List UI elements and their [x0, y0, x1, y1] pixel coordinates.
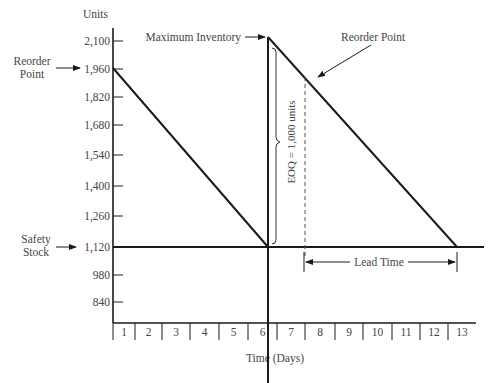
- y-tick-label: 1,400: [84, 180, 110, 193]
- x-tick-labels: 1 2 3 4 5 6 7 8 9 10 11 12 13: [121, 326, 468, 338]
- inventory-chart: Units 2,100 1,960 1,820 1,680 1,540 1,40…: [0, 0, 499, 383]
- svg-text:7: 7: [288, 326, 294, 338]
- svg-text:12: 12: [428, 326, 440, 338]
- svg-text:5: 5: [231, 326, 237, 338]
- svg-text:8: 8: [317, 326, 323, 338]
- y-axis-title: Units: [83, 8, 108, 20]
- y-tick-label: 2,100: [84, 35, 110, 48]
- y-tick-label: 1,120: [84, 241, 110, 254]
- reorder-point-right-label: Reorder Point: [341, 31, 406, 43]
- reorder-point-left-label-2: Point: [20, 68, 45, 80]
- svg-text:6: 6: [260, 326, 266, 338]
- svg-text:1: 1: [121, 326, 127, 338]
- y-tick-label: 1,260: [84, 210, 110, 223]
- y-tick-label: 1,540: [84, 149, 110, 162]
- y-ticks: 2,100 1,960 1,820 1,680 1,540 1,400 1,26…: [84, 35, 123, 308]
- y-tick-label: 1,960: [84, 63, 110, 76]
- safety-stock-label-2: Stock: [23, 246, 49, 258]
- y-tick-label: 1,680: [84, 119, 110, 132]
- eoq-brace: [272, 48, 280, 244]
- safety-stock-label: Safety: [21, 233, 51, 246]
- x-ticks: [113, 323, 448, 340]
- y-tick-label: 840: [93, 296, 111, 308]
- max-inventory-label: Maximum Inventory: [146, 31, 242, 44]
- inventory-line-cycle-1: [113, 68, 268, 247]
- svg-text:3: 3: [173, 326, 179, 338]
- eoq-label: EOQ = 1,000 units: [285, 100, 297, 183]
- svg-text:4: 4: [202, 326, 208, 338]
- svg-text:2: 2: [146, 326, 152, 338]
- y-tick-label: 980: [93, 269, 111, 281]
- x-axis-title: Time (Days): [246, 352, 304, 365]
- svg-text:10: 10: [372, 326, 384, 338]
- svg-text:9: 9: [346, 326, 352, 338]
- svg-text:13: 13: [456, 326, 468, 338]
- reorder-point-left-label: Reorder: [13, 55, 50, 67]
- reorder-right-arrow-icon: [318, 45, 371, 77]
- lead-time-label: Lead Time: [354, 256, 404, 268]
- y-tick-label: 1,820: [84, 91, 110, 104]
- svg-text:11: 11: [400, 326, 411, 338]
